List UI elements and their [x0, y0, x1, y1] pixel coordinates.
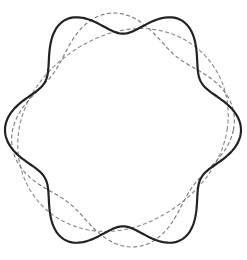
- wave-ring-diagram: [0, 0, 247, 260]
- dashed-ring-a: [12, 13, 235, 247]
- solid-ring: [5, 17, 241, 242]
